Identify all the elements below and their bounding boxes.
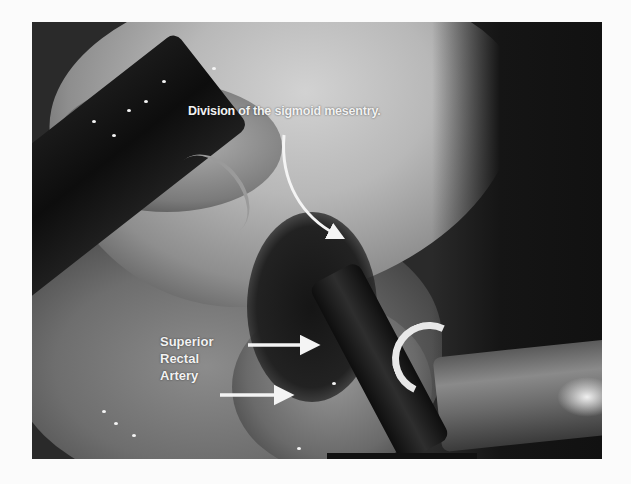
laparoscopic-photo: Division of the sigmoid mesentry. Superi… (32, 22, 602, 459)
label-line-3: Artery (160, 367, 213, 384)
curved-arrow-icon (284, 135, 337, 235)
mesentery-division-label: Division of the sigmoid mesentry. (188, 104, 381, 118)
label-line-1: Superior (160, 333, 213, 350)
label-line-2: Rectal (160, 350, 213, 367)
superior-rectal-artery-label: Superior Rectal Artery (160, 333, 213, 384)
annotation-arrows (32, 22, 602, 459)
